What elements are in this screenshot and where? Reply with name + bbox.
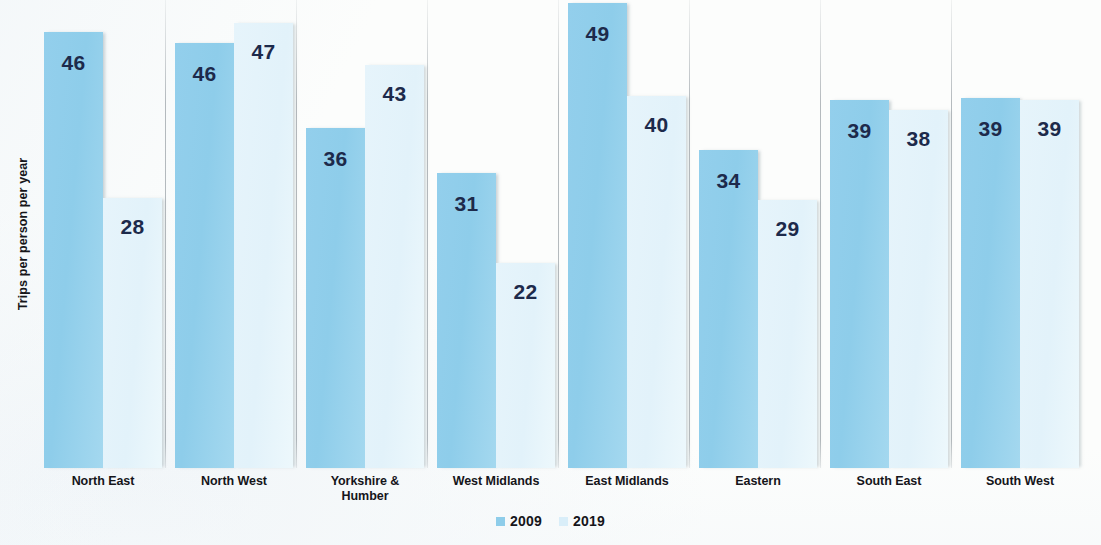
x-axis-label-south-west: South West [953, 474, 1087, 489]
legend-swatch-icon [559, 517, 568, 526]
bar-value-label: 43 [365, 82, 424, 106]
bar-value-label: 40 [627, 113, 686, 137]
x-axis-label-line1: West Midlands [429, 474, 563, 489]
group-divider [165, 0, 166, 468]
group-divider [427, 0, 428, 468]
x-axis-label-line1: Eastern [691, 474, 825, 489]
bar-value-label: 46 [44, 51, 103, 75]
x-axis-label-line2: Humber [298, 489, 432, 504]
bar-group-south-west: 39 39 [961, 0, 1079, 468]
group-divider [689, 0, 690, 468]
bar-value-label: 47 [234, 40, 293, 64]
x-axis-label-north-east: North East [36, 474, 170, 489]
x-axis-label-line1: Yorkshire & [298, 474, 432, 489]
bar-2019-north-west[interactable]: 47 [234, 23, 293, 468]
bar-group-south-east: 39 38 [830, 0, 948, 468]
x-axis-label-yorkshire-humber: Yorkshire & Humber [298, 474, 432, 504]
y-axis-title-text: Trips per person per year [16, 158, 30, 311]
bar-2019-east-midlands[interactable]: 40 [627, 96, 686, 468]
bar-value-label: 39 [830, 119, 889, 143]
legend-label: 2009 [510, 513, 542, 529]
bar-value-label: 28 [103, 215, 162, 239]
bar-2009-north-east[interactable]: 46 [44, 32, 103, 468]
bar-2009-north-west[interactable]: 46 [175, 43, 234, 468]
bar-2009-west-midlands[interactable]: 31 [437, 173, 496, 468]
legend-item-2009[interactable]: 2009 [496, 513, 542, 529]
bar-value-label: 39 [1020, 117, 1079, 141]
x-axis-label-south-east: South East [822, 474, 956, 489]
bar-chart: Trips per person per year 46 28 46 47 [0, 0, 1101, 545]
plot-area: 46 28 46 47 36 43 31 [40, 0, 1101, 468]
x-axis: North East North West Yorkshire & Humber… [40, 474, 1101, 518]
bar-2009-south-east[interactable]: 39 [830, 100, 889, 468]
x-axis-label-line1: North West [167, 474, 301, 489]
bar-2009-east-midlands[interactable]: 49 [568, 3, 627, 468]
bar-value-label: 46 [175, 62, 234, 86]
bar-value-label: 29 [758, 217, 817, 241]
x-axis-label-line1: South East [822, 474, 956, 489]
bar-2009-yorkshire-humber[interactable]: 36 [306, 128, 365, 468]
bar-value-label: 39 [961, 117, 1020, 141]
group-divider [296, 0, 297, 468]
legend-swatch-icon [496, 517, 505, 526]
x-axis-label-west-midlands: West Midlands [429, 474, 563, 489]
bar-2019-yorkshire-humber[interactable]: 43 [365, 65, 424, 468]
bar-2019-south-west[interactable]: 39 [1020, 100, 1079, 468]
bar-2009-south-west[interactable]: 39 [961, 98, 1020, 468]
bar-value-label: 22 [496, 280, 555, 304]
x-axis-label-north-west: North West [167, 474, 301, 489]
x-axis-label-east-midlands: East Midlands [560, 474, 694, 489]
group-divider [558, 0, 559, 468]
x-axis-label-eastern: Eastern [691, 474, 825, 489]
x-axis-label-line1: East Midlands [560, 474, 694, 489]
bar-value-label: 31 [437, 192, 496, 216]
bar-value-label: 36 [306, 147, 365, 171]
bar-group-east-midlands: 49 40 [568, 0, 686, 468]
bar-group-west-midlands: 31 22 [437, 0, 555, 468]
group-divider [820, 0, 821, 468]
legend-label: 2019 [573, 513, 605, 529]
bar-value-label: 49 [568, 22, 627, 46]
x-axis-label-line1: North East [36, 474, 170, 489]
x-axis-label-line1: South West [953, 474, 1087, 489]
bar-group-north-west: 46 47 [175, 0, 293, 468]
group-divider [951, 0, 952, 468]
bar-value-label: 38 [889, 127, 948, 151]
y-axis-title: Trips per person per year [6, 0, 40, 468]
bar-group-eastern: 34 29 [699, 0, 817, 468]
bar-2019-north-east[interactable]: 28 [103, 198, 162, 468]
legend-item-2019[interactable]: 2019 [559, 513, 605, 529]
bar-value-label: 34 [699, 169, 758, 193]
bar-2009-eastern[interactable]: 34 [699, 150, 758, 468]
chart-legend: 2009 2019 [0, 513, 1101, 529]
bar-2019-south-east[interactable]: 38 [889, 110, 948, 468]
bar-2019-eastern[interactable]: 29 [758, 200, 817, 468]
bar-group-north-east: 46 28 [44, 0, 162, 468]
bar-group-yorkshire-humber: 36 43 [306, 0, 424, 468]
bar-2019-west-midlands[interactable]: 22 [496, 263, 555, 468]
